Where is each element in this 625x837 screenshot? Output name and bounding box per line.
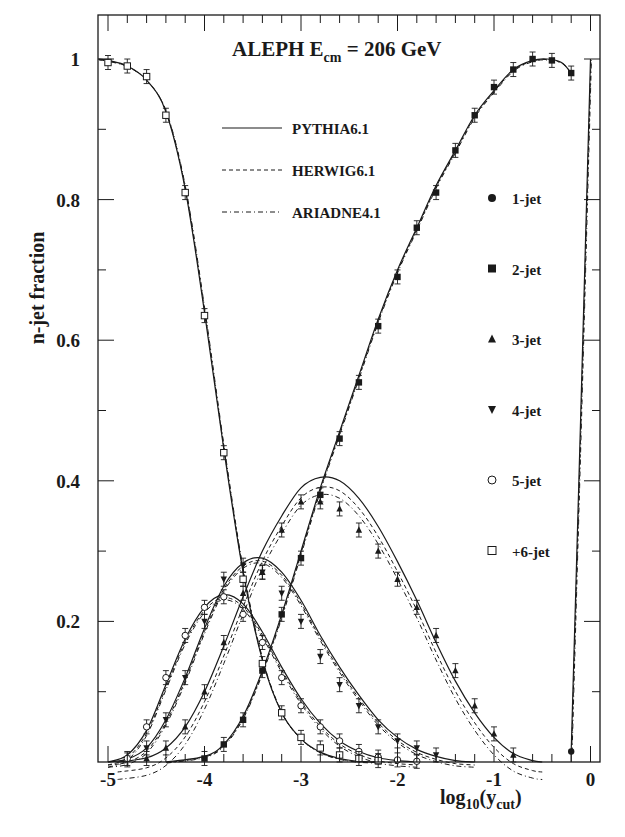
curve-3-jet-ariadne4.1 (118, 494, 543, 779)
curve-3-jet-herwig6.1 (118, 487, 543, 772)
curve-4-jet-ariadne4.1 (108, 563, 475, 767)
markers-5-jet (124, 590, 420, 769)
y-tick-label: 0.8 (56, 190, 80, 211)
curve-3-jet-pythia6.1 (118, 477, 543, 762)
x-tick-label: -3 (293, 769, 309, 790)
marker-legend: 1-jet2-jet3-jet4-jet5-jet+6-jet (488, 191, 550, 560)
x-axis-title: log10(ycut) (440, 786, 522, 812)
legend-item-5-jet: 5-jet (488, 473, 541, 489)
y-tick-label: 0.6 (56, 330, 80, 351)
legend-item-2-jet: 2-jet (488, 262, 541, 278)
x-tick-label: -5 (100, 769, 116, 790)
curve-5-jet-pythia6.1 (108, 595, 417, 762)
legend-label: 4-jet (512, 403, 541, 419)
legend-item-3-jet: 3-jet (488, 332, 541, 348)
y-tick-label: 0.2 (56, 611, 80, 632)
y-tick-label: 0.4 (56, 471, 80, 492)
legend-label: 3-jet (512, 332, 541, 348)
curve-4-jet-pythia6.1 (108, 558, 475, 762)
legend-item-1-jet: 1-jet (488, 191, 541, 207)
markers-3-jet (143, 495, 516, 766)
curve-5-jet-herwig6.1 (108, 598, 417, 765)
legend-label-pythia: PYTHIA6.1 (292, 121, 369, 137)
y-axis-title: n-jet fraction (26, 232, 49, 345)
model-legend: PYTHIA6.1 HERWIG6.1 ARIADNE4.1 (222, 121, 381, 221)
legend-label-herwig: HERWIG6.1 (292, 163, 375, 179)
x-tick-label: -4 (197, 769, 213, 790)
legend-label-ariadne: ARIADNE4.1 (292, 205, 381, 221)
legend-item-4-jet: 4-jet (488, 403, 541, 419)
curve-5-jet-ariadne4.1 (108, 600, 417, 767)
curve-1-jet-pythia6.1 (571, 59, 590, 751)
legend-label: 1-jet (512, 191, 541, 207)
n-jet-fraction-chart: -5-4-3-2-100.20.40.60.81 ALEPH Ecm = 206… (0, 0, 625, 837)
legend-label: 2-jet (512, 262, 541, 278)
y-tick-label: 1 (71, 49, 81, 70)
legend-label: +6-jet (512, 544, 550, 560)
x-tick-label: 0 (586, 769, 596, 790)
legend-item-plus6-jet: +6-jet (488, 544, 550, 560)
x-tick-label: -2 (390, 769, 406, 790)
legend-label: 5-jet (512, 473, 541, 489)
chart-title: ALEPH Ecm = 206 GeV (232, 37, 442, 65)
curve-4-jet-herwig6.1 (108, 561, 475, 765)
